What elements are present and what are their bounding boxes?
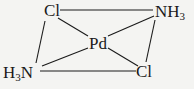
metal-center-pd: Pd	[89, 35, 107, 52]
bond-cl-h3n-left	[36, 21, 45, 63]
bond-h3n-pd	[42, 48, 88, 66]
square-planar-complex-diagram: Cl NH3 Pd H3N Cl	[0, 0, 194, 89]
bond-cl-nh3-right	[146, 20, 155, 62]
bond-cl-bottom-pd	[108, 48, 138, 66]
bond-nh3-pd	[108, 16, 154, 36]
ligand-cl-bottom: Cl	[136, 63, 152, 80]
ligand-nh3-top: NH3	[155, 3, 185, 22]
bond-cl-pd	[58, 18, 88, 36]
ligand-cl-top: Cl	[44, 2, 60, 19]
ligand-h3n-bottom: H3N	[3, 64, 33, 83]
